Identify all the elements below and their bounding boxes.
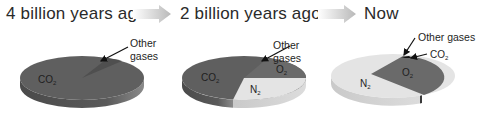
label-other-gases: Other gases <box>418 31 475 43</box>
label-gases: gases <box>273 52 301 64</box>
label-other: Other <box>130 37 157 49</box>
label-other: Other <box>273 39 300 51</box>
pie-charts: CO2 Other gases CO2 O2 N2 Other gases O2… <box>0 0 481 115</box>
label-co2: CO2 <box>430 49 449 61</box>
label-gases: gases <box>130 50 158 62</box>
